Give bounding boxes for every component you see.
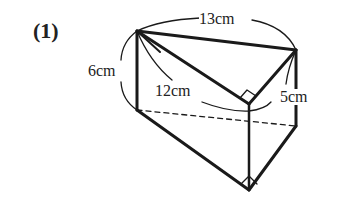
edge-bottom-right [249,126,296,190]
label-5cm: 5cm [280,89,308,105]
arc-12cm-bottom [202,102,271,111]
label-12cm: 12cm [155,83,191,99]
edge-hidden-back [137,110,296,126]
edge-bottom-left [137,110,249,190]
arc-6cm-top [121,31,137,60]
arc-12cm-top [137,31,172,80]
label-6cm: 6cm [88,63,116,79]
arc-6cm-bottom [121,82,137,110]
arc-13cm-left [137,18,200,31]
label-13cm: 13cm [199,11,235,27]
